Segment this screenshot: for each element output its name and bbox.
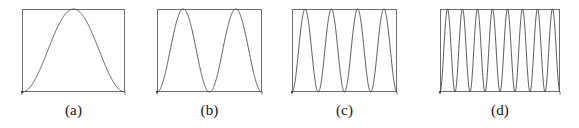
panel-c-curve <box>292 9 397 92</box>
figure-four-panel-oscillations: (a)(b)(c)(d) <box>0 0 579 128</box>
panel-d-origin-marker <box>439 91 441 93</box>
panel-b-curve <box>157 9 262 92</box>
panel-b-origin-marker <box>156 91 158 93</box>
panel-c: (c) <box>292 0 397 128</box>
panel-a-curve <box>22 9 125 92</box>
panel-a-plot <box>18 5 129 96</box>
panel-a: (a) <box>22 0 125 128</box>
panel-b-plot <box>153 5 266 96</box>
panel-c-plot <box>288 5 401 96</box>
panel-d-curve <box>440 9 560 92</box>
panel-b-label: (b) <box>157 103 262 118</box>
panel-a-frame <box>23 10 125 92</box>
panel-d: (d) <box>440 0 560 128</box>
panel-d-plot <box>436 5 564 96</box>
panel-a-label: (a) <box>22 103 125 118</box>
panel-d-label: (d) <box>440 103 560 118</box>
panel-a-origin-marker <box>21 91 23 93</box>
panel-c-label: (c) <box>292 103 397 118</box>
panel-c-origin-marker <box>291 91 293 93</box>
panel-b: (b) <box>157 0 262 128</box>
panel-b-frame <box>158 10 262 92</box>
